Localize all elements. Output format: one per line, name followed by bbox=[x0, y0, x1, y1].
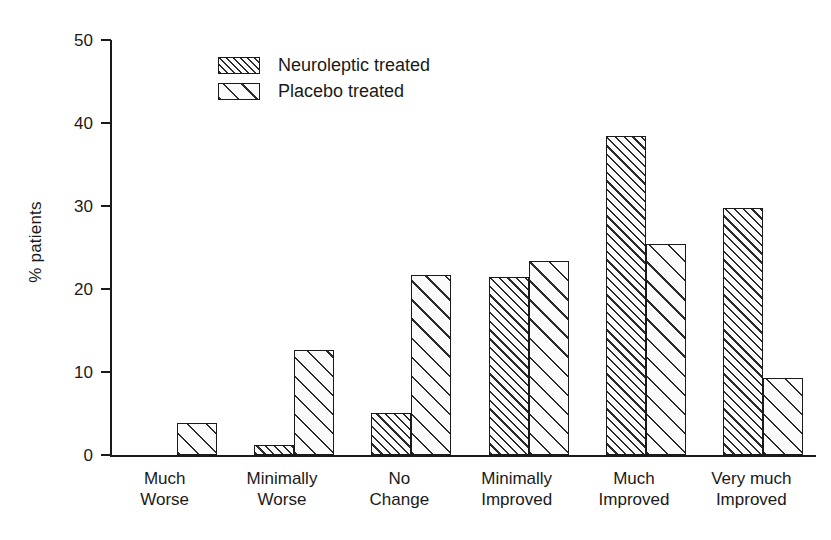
y-axis-tick-label: 50 bbox=[33, 32, 93, 49]
y-axis-tick bbox=[101, 122, 111, 124]
bar-neuroleptic bbox=[371, 413, 411, 455]
legend-label-neuroleptic: Neuroleptic treated bbox=[278, 55, 430, 76]
bar-neuroleptic bbox=[489, 277, 529, 455]
x-axis-category-label: Much Worse bbox=[106, 468, 223, 510]
y-axis-tick bbox=[101, 371, 111, 373]
y-axis-title: % patients bbox=[26, 162, 46, 322]
x-axis-category-label: Much Improved bbox=[575, 468, 692, 510]
x-axis-category-label: No Change bbox=[341, 468, 458, 510]
y-axis-tick bbox=[101, 39, 111, 41]
bar-neuroleptic bbox=[723, 208, 763, 455]
legend: Neuroleptic treated Placebo treated bbox=[218, 52, 430, 104]
legend-item-neuroleptic: Neuroleptic treated bbox=[218, 52, 430, 78]
bar-group bbox=[464, 40, 581, 455]
x-axis-category-label: Minimally Improved bbox=[458, 468, 575, 510]
x-axis-line bbox=[110, 455, 816, 457]
bar-placebo bbox=[763, 378, 803, 455]
bar-group bbox=[112, 40, 229, 455]
y-axis-tick-label: 10 bbox=[33, 364, 93, 381]
bar-chart: % patients 01020304050 Much WorseMinimal… bbox=[0, 0, 831, 540]
x-axis-category-label: Minimally Worse bbox=[223, 468, 340, 510]
bar-neuroleptic bbox=[254, 445, 294, 455]
legend-label-placebo: Placebo treated bbox=[278, 81, 404, 102]
y-axis-tick-label: 20 bbox=[33, 281, 93, 298]
legend-swatch-neuroleptic-icon bbox=[218, 57, 260, 74]
y-axis-tick-label: 30 bbox=[33, 198, 93, 215]
bar-placebo bbox=[411, 275, 451, 455]
y-axis-tick bbox=[101, 205, 111, 207]
legend-item-placebo: Placebo treated bbox=[218, 78, 430, 104]
bar-placebo bbox=[177, 423, 217, 455]
bar-placebo bbox=[529, 261, 569, 455]
y-axis-tick-label: 40 bbox=[33, 115, 93, 132]
bar-placebo bbox=[294, 350, 334, 455]
bar-neuroleptic bbox=[606, 136, 646, 455]
bar-placebo bbox=[646, 244, 686, 455]
legend-swatch-placebo-icon bbox=[218, 83, 260, 100]
x-axis-category-label: Very much Improved bbox=[693, 468, 810, 510]
bar-group bbox=[699, 40, 816, 455]
y-axis-tick-label: 0 bbox=[33, 447, 93, 464]
y-axis-tick bbox=[101, 288, 111, 290]
bar-group bbox=[581, 40, 698, 455]
